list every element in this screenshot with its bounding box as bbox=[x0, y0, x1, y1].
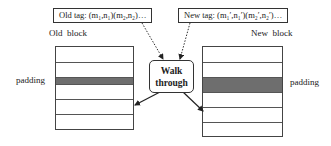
dashed-arrow-old-tag bbox=[142, 23, 163, 59]
arrow-to-new-block bbox=[183, 92, 203, 111]
dashed-arrow-new-tag bbox=[180, 23, 190, 59]
walk-through-line2: through bbox=[150, 77, 193, 89]
walk-through-line1: Walk bbox=[150, 65, 193, 77]
walk-through-box: Walk through bbox=[149, 60, 194, 93]
arrow-to-old-block bbox=[135, 92, 160, 105]
